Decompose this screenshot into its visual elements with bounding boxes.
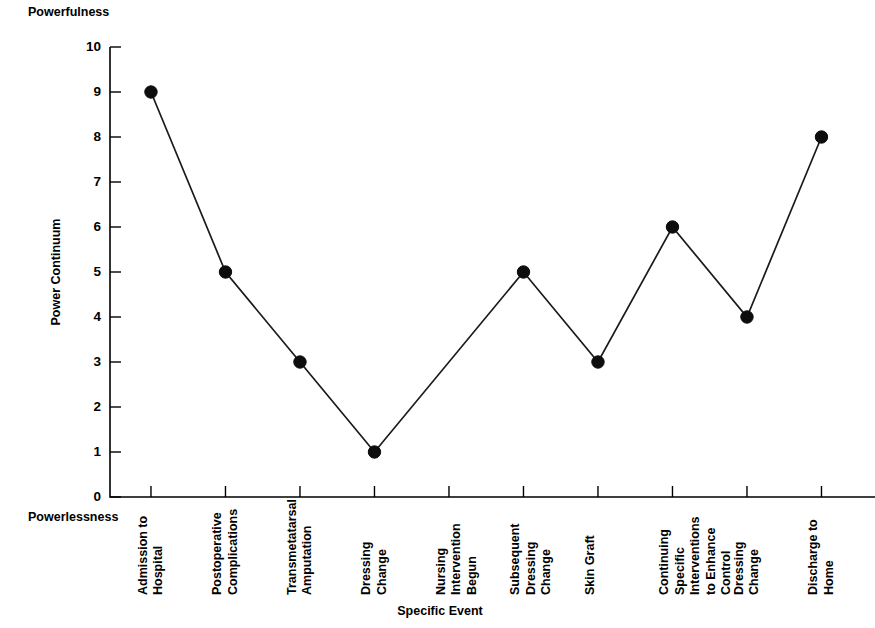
x-axis-category-line: Complications: [226, 509, 240, 595]
x-axis-category-line: Home: [822, 560, 836, 595]
x-axis-category-line: Postoperative: [210, 512, 224, 595]
x-axis-category-label: Skin Graft: [583, 534, 597, 595]
x-axis-category-line: Subsequent: [508, 523, 522, 595]
y-axis-tick-label: 4: [93, 309, 101, 324]
x-axis-category-label: DressingChange: [359, 542, 389, 596]
data-point-marker[interactable]: [517, 266, 529, 278]
y-axis-tick-label: 5: [93, 264, 101, 279]
x-axis-category-label: Admission toHospital: [136, 515, 166, 595]
x-axis-category-line: Dressing: [524, 542, 538, 596]
x-axis-category-line: Transmetatarsal: [285, 499, 299, 595]
x-axis-category-label: DressingChange: [732, 542, 762, 596]
x-axis-category-line: Intervention: [449, 523, 463, 595]
y-axis-tick-label: 1: [93, 444, 101, 459]
x-axis-category-line: Nursing: [434, 548, 448, 595]
x-axis-category-label: PostoperativeComplications: [210, 509, 240, 595]
data-series-line: [151, 92, 822, 452]
y-axis-tick-label: 7: [93, 174, 101, 189]
x-axis-category-line: Begun: [465, 556, 479, 595]
x-axis-category-line: Change: [539, 549, 553, 595]
y-axis-tick-label: 0: [93, 489, 101, 504]
x-axis-category-line: Specific: [673, 547, 687, 595]
x-axis-category-line: Dressing: [359, 542, 373, 596]
x-axis-category-line: Change: [375, 549, 389, 595]
data-point-marker[interactable]: [219, 266, 231, 278]
line-chart: 012345678910Admission toHospitalPostoper…: [0, 0, 875, 628]
chart-figure: 012345678910Admission toHospitalPostoper…: [0, 0, 875, 628]
x-axis-category-label: NursingInterventionBegun: [434, 523, 479, 595]
data-point-marker[interactable]: [294, 356, 306, 368]
data-point-marker[interactable]: [741, 311, 753, 323]
data-point-marker[interactable]: [666, 221, 678, 233]
x-axis-category-line: Continuing: [657, 529, 671, 595]
x-axis-category-label: SubsequentDressingChange: [508, 523, 553, 595]
x-axis-category-label: Discharge toHome: [806, 519, 836, 595]
x-axis-category-line: to Enhance: [704, 528, 718, 595]
data-point-marker[interactable]: [592, 356, 604, 368]
y-axis-tick-label: 10: [86, 39, 101, 54]
y-axis-tick-label: 8: [93, 129, 101, 144]
x-axis-category-line: Hospital: [151, 546, 165, 595]
x-axis-category-line: Admission to: [136, 515, 150, 595]
x-axis-category-label: TransmetatarsalAmputation: [285, 499, 315, 595]
x-axis-category-line: Dressing: [732, 542, 746, 596]
y-axis-tick-label: 6: [93, 219, 101, 234]
x-axis-category-line: Change: [747, 549, 761, 595]
x-axis-category-label: ContinuingSpecificInterventionsto Enhanc…: [657, 516, 733, 595]
y-axis-tick-label: 2: [93, 399, 101, 414]
data-point-marker[interactable]: [368, 446, 380, 458]
x-axis-category-line: Discharge to: [806, 519, 820, 595]
x-axis-category-line: Amputation: [300, 526, 314, 595]
y-axis-tick-label: 3: [93, 354, 101, 369]
x-axis-category-line: Interventions: [688, 516, 702, 595]
data-point-marker[interactable]: [815, 131, 827, 143]
x-axis-category-line: Skin Graft: [583, 534, 597, 595]
data-point-marker[interactable]: [145, 86, 157, 98]
y-axis-tick-label: 9: [93, 84, 101, 99]
